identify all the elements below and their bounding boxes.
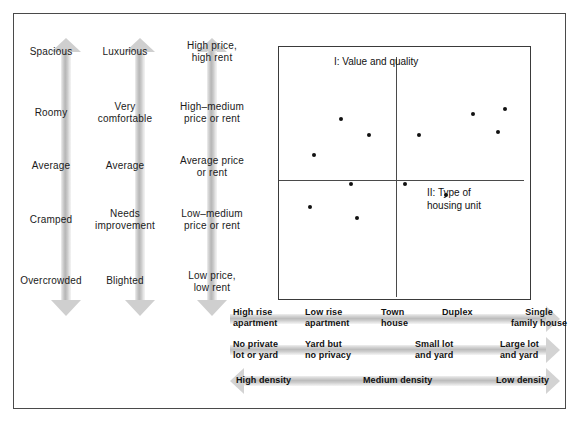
price-scale-label-average: Average price or rent bbox=[164, 155, 260, 179]
space-scale-label-spacious: Spacious bbox=[16, 46, 86, 58]
housing-type-label-town-house: Town house bbox=[381, 307, 443, 329]
housing-attributes-figure: Spacious Roomy Average Cramped Overcrowd… bbox=[0, 0, 585, 429]
lot-and-yard-label-large-lot: Large lot and yard bbox=[500, 339, 570, 361]
arrow-shaft bbox=[61, 51, 71, 301]
quadrant-label-housing-type: II: Type of housing unit bbox=[427, 186, 481, 212]
horizontal-axis bbox=[279, 180, 524, 181]
arrow-head-down-icon bbox=[197, 300, 227, 316]
lot-and-yard-label-yard-no-privacy: Yard but no privacy bbox=[305, 339, 379, 361]
data-point bbox=[496, 130, 500, 134]
price-scale-label-high: High price, high rent bbox=[172, 40, 252, 64]
data-point bbox=[349, 182, 353, 186]
vertical-axis bbox=[396, 57, 397, 297]
quality-scale-label-very-comfortable: Very comfortable bbox=[88, 101, 162, 125]
arrow-shaft bbox=[135, 51, 145, 301]
price-scale-label-low: Low price, low rent bbox=[172, 270, 252, 294]
housing-type-label-single-family: Single family house bbox=[496, 307, 582, 329]
density-label-high: High density bbox=[236, 375, 316, 386]
lot-and-yard-label-no-private-lot: No private lot or yard bbox=[233, 339, 303, 361]
data-point bbox=[417, 133, 421, 137]
quality-scale-label-average: Average bbox=[90, 160, 160, 172]
data-point bbox=[471, 112, 475, 116]
housing-type-label-duplex: Duplex bbox=[442, 307, 504, 318]
density-label-medium: Medium density bbox=[363, 375, 459, 386]
space-scale-label-average: Average bbox=[16, 160, 86, 172]
quality-scale-label-needs-improvement: Needs improvement bbox=[88, 208, 162, 232]
space-scale-label-roomy: Roomy bbox=[16, 107, 86, 119]
data-point bbox=[403, 182, 407, 186]
space-scale-label-overcrowded: Overcrowded bbox=[6, 275, 96, 287]
data-point bbox=[355, 216, 359, 220]
housing-type-label-high-rise: High rise apartment bbox=[233, 307, 303, 329]
housing-type-label-low-rise: Low rise apartment bbox=[305, 307, 375, 329]
scatter-plot: I: Value and quality II: Type of housing… bbox=[278, 46, 531, 300]
space-scale-label-cramped: Cramped bbox=[16, 214, 86, 226]
lot-and-yard-label-small-lot: Small lot and yard bbox=[415, 339, 485, 361]
arrow-head-down-icon bbox=[51, 300, 81, 316]
quality-scale-label-blighted: Blighted bbox=[90, 275, 160, 287]
data-point bbox=[503, 107, 507, 111]
price-scale-label-high-medium: High–medium price or rent bbox=[164, 101, 260, 125]
quadrant-label-value-quality: I: Value and quality bbox=[334, 55, 418, 68]
data-point bbox=[308, 205, 312, 209]
arrow-head-down-icon bbox=[125, 300, 155, 316]
quality-scale-label-luxurious: Luxurious bbox=[90, 46, 160, 58]
price-scale-label-low-medium: Low–medium price or rent bbox=[164, 208, 260, 232]
data-point bbox=[312, 153, 316, 157]
data-point bbox=[339, 117, 343, 121]
density-label-low: Low density bbox=[496, 375, 576, 386]
data-point bbox=[367, 133, 371, 137]
